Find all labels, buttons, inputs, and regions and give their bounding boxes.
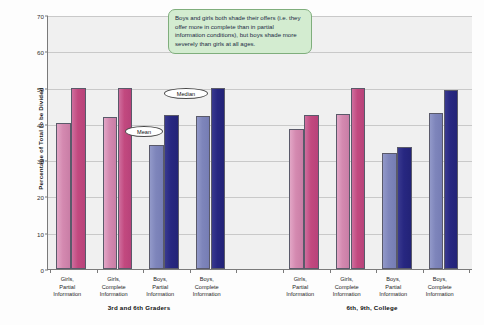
x-tick-mark: [236, 269, 237, 273]
y-tick-label: 20: [37, 194, 44, 201]
bar: [56, 123, 71, 269]
bar: [336, 114, 351, 269]
category-label: Boys, Complete Information: [419, 276, 462, 299]
x-tick-mark: [330, 269, 331, 273]
plot-area: 010203040506070 Median Mean: [47, 16, 472, 270]
bar: [397, 147, 412, 269]
bar: [118, 88, 133, 269]
mean-callout: Mean: [125, 126, 163, 137]
bar: [71, 88, 86, 269]
bar: [382, 153, 397, 269]
y-tick-label: 10: [37, 230, 44, 237]
x-tick-mark: [469, 269, 470, 273]
y-tick-label: 70: [37, 13, 44, 20]
y-tick-label: 60: [37, 49, 44, 56]
group-label: 6th, 9th, College: [279, 304, 465, 311]
group-label: 3rd and 6th Graders: [46, 304, 232, 311]
category-label: Boys, Complete Information: [186, 276, 229, 299]
median-callout: Median: [164, 88, 208, 99]
x-tick-mark: [143, 269, 144, 273]
bar: [444, 90, 459, 269]
y-tick-label: 40: [37, 121, 44, 128]
x-tick-mark: [97, 269, 98, 273]
x-tick-mark: [50, 269, 51, 273]
x-tick-mark: [190, 269, 191, 273]
y-tick-label: 0: [41, 267, 44, 274]
x-tick-mark: [283, 269, 284, 273]
category-label: Boys, Partial Information: [372, 276, 415, 299]
category-label: Girls, Partial Information: [279, 276, 322, 299]
category-label: Girls, Partial Information: [46, 276, 89, 299]
x-tick-mark: [423, 269, 424, 273]
x-tick-mark: [376, 269, 377, 273]
bar: [103, 117, 118, 269]
y-axis-title: Percentage of Total to be Divided: [37, 29, 44, 249]
y-tick-mark: [45, 270, 48, 271]
bar: [211, 88, 226, 269]
bar: [289, 129, 304, 269]
annotation-note: Boys and girls both shade their offers (…: [168, 9, 312, 54]
bar: [351, 88, 366, 269]
category-label: Girls, Complete Information: [326, 276, 369, 299]
bar: [304, 115, 319, 269]
y-tick-label: 30: [37, 158, 44, 165]
bar: [429, 113, 444, 269]
category-label: Boys, Partial Information: [139, 276, 182, 299]
bar: [196, 116, 211, 269]
bar-chart: Percentage of Total to be Divided 010203…: [0, 0, 484, 325]
y-tick-label: 50: [37, 85, 44, 92]
category-label: Girls, Complete Information: [93, 276, 136, 299]
bar: [164, 115, 179, 269]
bar: [149, 145, 164, 269]
